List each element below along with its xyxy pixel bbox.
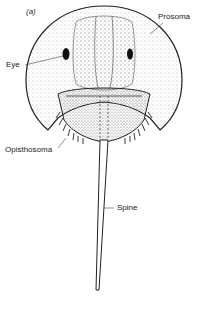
opisthosoma-shape — [56, 88, 152, 144]
panel-label: (a) — [26, 8, 36, 16]
left-eye-icon — [63, 48, 70, 60]
spine-label: Spine — [117, 204, 137, 212]
spine-shape — [96, 140, 108, 290]
right-eye-icon — [127, 49, 133, 60]
horseshoe-crab-illustration — [0, 0, 209, 310]
eye-label: Eye — [6, 61, 20, 69]
opisthosoma-leader-line — [58, 138, 66, 148]
prosoma-label: Prosoma — [158, 13, 190, 21]
opisthosoma-label: Opisthosoma — [5, 146, 52, 154]
